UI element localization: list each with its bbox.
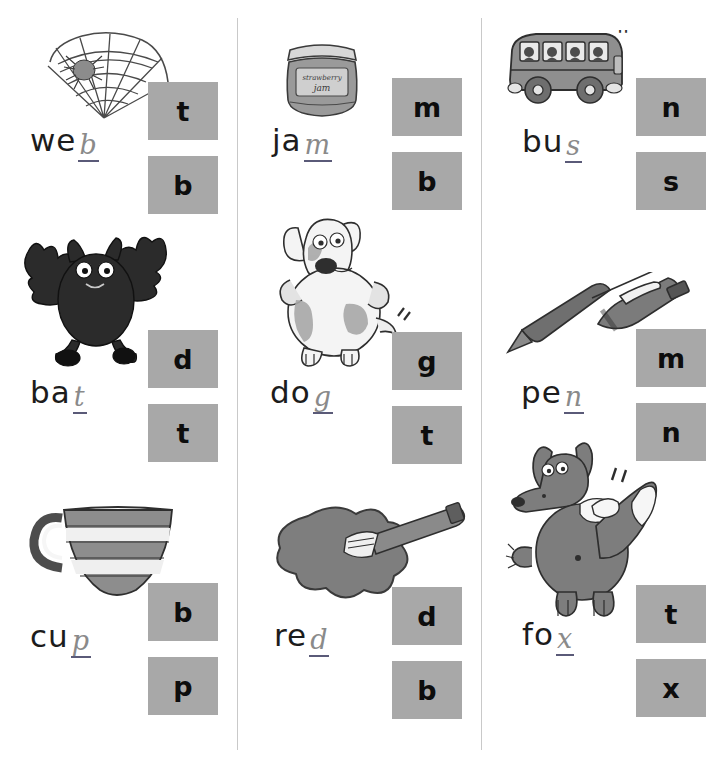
word-bus-printed: bu (522, 123, 563, 159)
word-bus: bus (522, 123, 580, 159)
choice-dog-1[interactable]: g (392, 332, 462, 390)
word-jam: jam (272, 122, 330, 158)
choices-jam: m b (392, 78, 462, 210)
column-divider-2 (481, 18, 482, 750)
top-crop-smudge: '' (404, 0, 456, 6)
word-pen: pen (521, 374, 582, 410)
column-divider-1 (237, 18, 238, 750)
choice-cup-1[interactable]: b (148, 583, 218, 641)
motion-lines-bus: '' (617, 30, 669, 48)
word-web-handwritten: b (78, 129, 98, 162)
word-red: red (274, 617, 327, 653)
word-bat: bat (30, 374, 85, 410)
choice-fox-1[interactable]: t (636, 585, 706, 643)
word-cup-printed: cu (30, 618, 69, 654)
word-dog: dog (270, 374, 331, 410)
svg-text:jam: jam (312, 83, 331, 93)
choice-web-1[interactable]: t (148, 82, 218, 140)
choice-bus-1[interactable]: n (636, 78, 706, 136)
word-web-printed: we (30, 122, 76, 158)
word-fox-printed: fo (522, 616, 554, 652)
svg-text:strawberry: strawberry (302, 74, 342, 82)
word-red-handwritten: d (309, 624, 329, 657)
choices-fox: t x (636, 585, 706, 717)
choice-dog-2[interactable]: t (392, 406, 462, 464)
word-dog-printed: do (270, 374, 311, 410)
bus-picture (502, 26, 632, 114)
choices-web: t b (148, 82, 218, 214)
choice-jam-1[interactable]: m (392, 78, 462, 136)
word-jam-printed: ja (272, 122, 302, 158)
choice-red-1[interactable]: d (392, 587, 462, 645)
choice-fox-2[interactable]: x (636, 659, 706, 717)
choice-cup-2[interactable]: p (148, 657, 218, 715)
word-fox: fox (522, 616, 572, 652)
word-bus-handwritten: s (565, 130, 582, 163)
word-cup: cup (30, 618, 89, 654)
word-jam-handwritten: m (304, 129, 333, 162)
choices-cup: b p (148, 583, 218, 715)
worksheet-sheet: '' (0, 0, 719, 766)
word-pen-handwritten: n (564, 381, 584, 414)
choice-web-2[interactable]: b (148, 156, 218, 214)
word-web: web (30, 122, 97, 158)
choices-bat: d t (148, 330, 218, 462)
choices-bus: n s (636, 78, 706, 210)
word-bat-printed: ba (30, 374, 71, 410)
choice-pen-1[interactable]: m (636, 329, 706, 387)
choice-bat-2[interactable]: t (148, 404, 218, 462)
choice-jam-2[interactable]: b (392, 152, 462, 210)
word-cup-handwritten: p (71, 625, 91, 658)
word-bat-handwritten: t (73, 381, 87, 414)
choice-bat-1[interactable]: d (148, 330, 218, 388)
choice-bus-2[interactable]: s (636, 152, 706, 210)
choices-red: d b (392, 587, 462, 719)
word-pen-printed: pe (521, 374, 562, 410)
word-dog-handwritten: g (313, 381, 333, 414)
word-red-printed: re (274, 617, 307, 653)
choice-red-2[interactable]: b (392, 661, 462, 719)
word-fox-handwritten: x (556, 623, 574, 656)
choices-dog: g t (392, 332, 462, 464)
jam-jar-picture: strawberry jam (276, 26, 368, 122)
